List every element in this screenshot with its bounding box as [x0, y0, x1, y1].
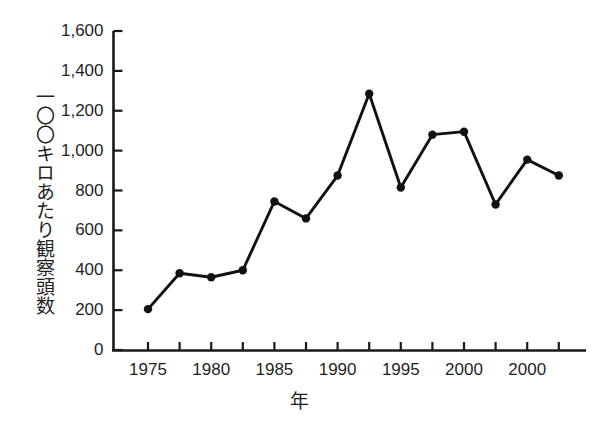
data-point-marker	[207, 273, 215, 281]
x-axis-tick-label: 2000	[434, 360, 494, 380]
data-point-marker	[270, 197, 278, 205]
y-axis-tick-label: 600	[44, 220, 104, 240]
x-axis-tick-label: 1985	[244, 360, 304, 380]
data-point-marker	[175, 269, 183, 277]
y-axis-tick-label: 0	[44, 340, 104, 360]
data-point-marker	[428, 130, 436, 138]
y-axis-tick-label: 1,400	[44, 61, 104, 81]
y-axis-tick-label: 1,600	[44, 21, 104, 41]
y-axis-tick-label: 1,200	[44, 101, 104, 121]
y-axis-tick-label: 800	[44, 181, 104, 201]
data-point-marker	[460, 127, 468, 135]
chart-figure: 一〇〇キロあたり観察頭数 02004006008001,0001,2001,40…	[0, 0, 599, 423]
data-point-marker	[365, 90, 373, 98]
x-axis-tick-label: 2000	[497, 360, 557, 380]
y-axis-tick-label: 200	[44, 300, 104, 320]
x-axis-tick-label: 1990	[308, 360, 368, 380]
data-point-marker	[555, 171, 563, 179]
y-axis-tick-label: 400	[44, 260, 104, 280]
data-point-marker	[144, 305, 152, 313]
data-point-markers	[144, 90, 563, 314]
y-axis-tick-label: 1,000	[44, 141, 104, 161]
x-axis-tick-marks	[148, 342, 559, 350]
x-axis-tick-label: 1980	[181, 360, 241, 380]
x-axis-tick-label: 1995	[371, 360, 431, 380]
data-point-marker	[491, 200, 499, 208]
x-axis-title: 年	[0, 386, 599, 413]
data-point-marker	[523, 155, 531, 163]
axes-lines	[112, 31, 586, 351]
data-point-marker	[302, 214, 310, 222]
data-point-marker	[333, 171, 341, 179]
x-axis-tick-label: 1975	[118, 360, 178, 380]
data-point-marker	[397, 183, 405, 191]
y-axis-tick-marks	[114, 31, 123, 350]
data-point-marker	[239, 266, 247, 274]
